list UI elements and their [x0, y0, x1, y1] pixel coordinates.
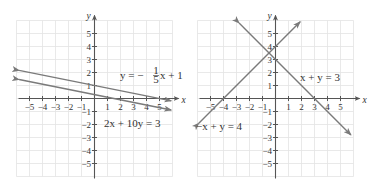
graph-left: −5−4−3−2−112345−5−4−3−2−112345xyy = −15x… [17, 11, 187, 179]
y-tick-label: −4 [262, 146, 272, 156]
y-tick-label: −3 [262, 133, 272, 143]
x-tick-label: −4 [38, 102, 48, 112]
equation-label: −x + y = 4 [196, 120, 243, 132]
x-tick-label: −5 [206, 102, 216, 112]
x-tick-label: 1 [105, 102, 110, 112]
y-tick-label: −3 [81, 133, 91, 143]
equation-label: 2x + 10y = 3 [104, 117, 161, 129]
x-tick-label: −4 [219, 102, 229, 112]
x-axis-label: x [181, 95, 187, 105]
y-tick-label: −5 [81, 159, 91, 169]
x-tick-label: −5 [25, 102, 35, 112]
y-tick-label: 2 [87, 68, 92, 78]
x-tick-label: 2 [118, 102, 123, 112]
x-tick-label: 4 [144, 102, 149, 112]
y-tick-label: 5 [268, 29, 273, 39]
x-tick-label: −3 [232, 102, 242, 112]
x-tick-label: −2 [64, 102, 74, 112]
x-tick-label: −2 [245, 102, 255, 112]
x-axis-label: x [362, 95, 368, 105]
x-tick-label: 5 [157, 102, 162, 112]
y-tick-label: 1 [268, 81, 273, 91]
x-tick-label: 1 [286, 102, 291, 112]
x-tick-label: 5 [338, 102, 343, 112]
chart-canvas: −5−4−3−2−112345−5−4−3−2−112345xyy = −15x… [0, 0, 377, 187]
y-tick-label: −1 [262, 107, 272, 117]
equation-part: x + 1 [160, 69, 183, 81]
y-tick-label: 4 [87, 42, 92, 52]
y-tick-label: 2 [268, 68, 273, 78]
fraction-denominator: 5 [153, 73, 159, 85]
y-axis-label: y [267, 11, 273, 21]
x-tick-label: 2 [299, 102, 304, 112]
x-tick-label: −3 [51, 102, 61, 112]
equation-label: x + y = 3 [300, 71, 340, 83]
y-tick-label: 5 [87, 29, 92, 39]
graph-right: −5−4−3−2−112345−5−4−3−2−112345xyx + y = … [196, 11, 368, 179]
y-tick-label: −5 [262, 159, 272, 169]
equation-part: y = − [120, 69, 143, 81]
y-tick-label: −2 [81, 120, 91, 130]
y-tick-label: 1 [87, 81, 92, 91]
y-axis-label: y [86, 11, 92, 21]
y-tick-label: −1 [81, 107, 91, 117]
equation-label: y = − [120, 69, 143, 81]
x-tick-label: 3 [312, 102, 317, 112]
y-tick-label: 3 [87, 55, 92, 65]
figure: −5−4−3−2−112345−5−4−3−2−112345xyy = −15x… [0, 0, 377, 187]
y-tick-label: −2 [262, 120, 272, 130]
y-tick-label: −4 [81, 146, 91, 156]
